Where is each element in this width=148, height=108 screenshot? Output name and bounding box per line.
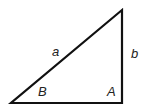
hypotenuse-label: a	[52, 44, 59, 59]
side-b-label: b	[131, 46, 138, 61]
triangle-shape	[11, 10, 122, 103]
angle-a-label: A	[106, 84, 116, 99]
right-triangle-diagram: a b B A	[0, 0, 148, 108]
angle-b-label: B	[38, 84, 47, 99]
